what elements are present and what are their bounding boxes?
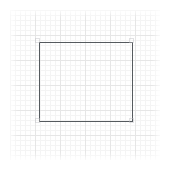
drawing-canvas[interactable]: [0, 0, 175, 172]
corner-handle-bottom-left[interactable]: [35, 118, 40, 123]
corner-handle-top-right[interactable]: [129, 38, 134, 43]
corner-handle-bottom-right[interactable]: [129, 118, 134, 123]
corner-handle-top-left[interactable]: [35, 38, 40, 43]
rectangle-shape[interactable]: [39, 42, 133, 122]
